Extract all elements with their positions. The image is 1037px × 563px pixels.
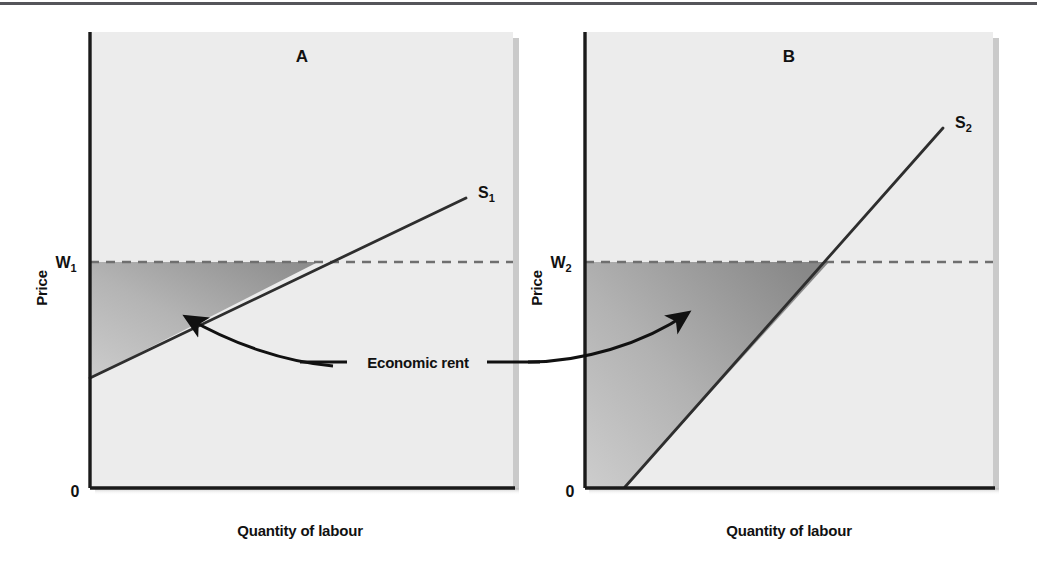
panel-a-origin-label: 0 — [71, 483, 80, 500]
top-rule — [0, 2, 1037, 5]
panel-a-letter: A — [296, 47, 308, 66]
panel-a-shadow-right — [513, 38, 519, 490]
panel-b-origin-label: 0 — [566, 483, 575, 500]
panel-b-y-axis-title: Price — [528, 270, 545, 306]
panel-a-curve-subscript: 1 — [489, 192, 495, 204]
panel-a-plot-area — [90, 32, 513, 487]
panel-a-wage-letter: W — [55, 254, 71, 271]
panel-a-curve-letter: S — [478, 184, 489, 201]
panel-a-wage-label: W1 — [55, 254, 76, 274]
economics-figure: A W1 0 S1 Price Quantity of labour — [0, 0, 1037, 563]
panel-b-wage-label: W2 — [550, 254, 571, 274]
panel-b-wage-letter: W — [550, 254, 566, 271]
panel-b-curve-subscript: 2 — [966, 122, 972, 134]
panel-b-x-axis-title: Quantity of labour — [726, 522, 852, 539]
panel-b: B W2 0 S2 Price Quantity of labour — [528, 32, 999, 539]
economic-rent-label: Economic rent — [367, 354, 469, 371]
panel-a-wage-subscript: 1 — [70, 262, 76, 274]
panel-b-letter: B — [783, 47, 795, 66]
panel-b-wage-subscript: 2 — [565, 262, 571, 274]
panel-a-y-axis-title: Price — [33, 270, 50, 306]
figure-canvas: A W1 0 S1 Price Quantity of labour — [0, 0, 1037, 563]
panel-a: A W1 0 S1 Price Quantity of labour — [33, 32, 519, 539]
panel-a-x-axis-title: Quantity of labour — [237, 522, 363, 539]
panel-b-curve-letter: S — [955, 114, 966, 131]
panel-b-shadow-right — [993, 38, 999, 490]
